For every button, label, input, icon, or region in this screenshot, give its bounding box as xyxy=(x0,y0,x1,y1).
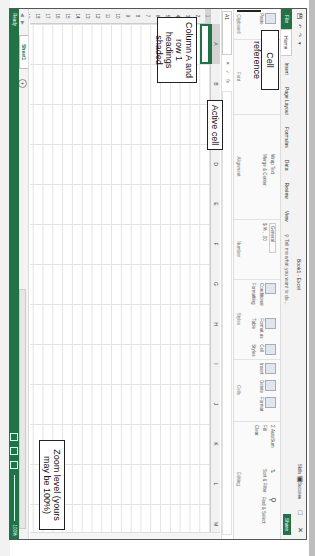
next-sheet-icon[interactable]: ▶ xyxy=(20,21,26,25)
group-editing: Σ AutoSum Fill Clear ⇅Sort & Filter ⚲Fin… xyxy=(234,421,280,537)
row-header-7[interactable]: 7 xyxy=(145,9,150,23)
customize-icon[interactable]: ▾ xyxy=(297,42,303,45)
horizontal-scrollbar[interactable] xyxy=(19,289,26,529)
row-header-8[interactable]: 8 xyxy=(135,9,140,23)
conditional-formatting-button[interactable]: Conditional Formatting xyxy=(249,283,276,314)
window-title: Book1 - Excel xyxy=(296,259,302,290)
sort-icon: ⇅ xyxy=(270,469,275,473)
paste-button[interactable]: Paste xyxy=(259,13,264,25)
paste-icon[interactable] xyxy=(265,13,276,24)
row-header-15[interactable]: 15 xyxy=(65,9,70,23)
clear-button[interactable]: Clear xyxy=(254,425,259,436)
group-label-clipboard: Clipboard xyxy=(236,9,241,39)
row-header-18[interactable]: 18 xyxy=(35,9,40,23)
arrow-cell-reference xyxy=(237,10,261,12)
sort-filter-button[interactable]: ⇅Sort & Filter xyxy=(259,469,276,493)
column-header-g[interactable]: G xyxy=(213,264,219,304)
column-header-e[interactable]: E xyxy=(213,184,219,224)
ribbon-display-icon[interactable]: ▣ xyxy=(296,476,304,483)
cancel-icon[interactable]: ✕ xyxy=(225,61,231,65)
group-number: General $ % , .00 Number xyxy=(234,219,280,280)
row-header-14[interactable]: 14 xyxy=(75,9,80,23)
cell-styles-icon xyxy=(265,344,276,355)
column-header-k[interactable]: K xyxy=(213,424,219,464)
close-icon[interactable]: ✕ xyxy=(296,527,304,533)
sheet-nav: ◀ ▶ xyxy=(20,13,26,25)
formula-input[interactable] xyxy=(222,91,232,535)
column-header-d[interactable]: D xyxy=(213,144,219,184)
group-label-cells: Cells xyxy=(236,359,241,421)
group-alignment: Wrap Text Merge & Center Alignment xyxy=(234,114,280,220)
delete-cells-button[interactable]: Delete xyxy=(257,380,276,393)
status-bar: Ready 100% xyxy=(10,9,19,539)
column-header-j[interactable]: J xyxy=(213,384,219,424)
tab-page-layout[interactable]: Page Layout xyxy=(281,81,292,121)
tab-view[interactable]: View xyxy=(281,205,292,228)
find-select-button[interactable]: ⚲Find & Select xyxy=(259,497,276,524)
column-headers: A B C D E F G H I J K L M xyxy=(210,9,220,539)
title-bar: 💾 ↶ ↷ ▾ Book1 - Excel Skills for Success… xyxy=(292,9,306,539)
percent-button[interactable]: % xyxy=(262,227,267,231)
tab-formulas[interactable]: Formulas xyxy=(281,121,292,154)
column-header-a[interactable]: A xyxy=(210,24,220,64)
decimal-button[interactable]: .00 xyxy=(262,235,267,241)
normal-view-icon[interactable] xyxy=(10,433,18,441)
group-label-styles: Styles xyxy=(236,279,241,359)
page-break-view-icon[interactable] xyxy=(10,461,18,469)
group-label-font: Font xyxy=(236,39,241,114)
row-header-17[interactable]: 17 xyxy=(45,9,50,23)
name-box[interactable]: A1 xyxy=(222,11,232,55)
enter-icon[interactable]: ✓ xyxy=(225,70,231,74)
row-header-1[interactable]: 1 xyxy=(205,9,210,23)
row-header-16[interactable]: 16 xyxy=(55,9,60,23)
insert-cells-icon xyxy=(265,363,276,374)
tab-file[interactable]: File xyxy=(281,9,292,29)
save-icon[interactable]: 💾 xyxy=(297,13,303,19)
currency-button[interactable]: $ xyxy=(262,223,267,226)
autosum-button[interactable]: Σ AutoSum xyxy=(270,425,275,448)
fill-button[interactable]: Fill xyxy=(262,425,267,431)
tab-review[interactable]: Review xyxy=(281,176,292,204)
restore-icon[interactable]: □ xyxy=(296,511,304,515)
formula-buttons: ✕ ✓ fx xyxy=(225,61,231,83)
tab-data[interactable]: Data xyxy=(281,154,292,177)
redo-icon[interactable]: ↷ xyxy=(297,33,303,37)
insert-cells-button[interactable]: Insert xyxy=(257,363,276,376)
insert-function-icon[interactable]: fx xyxy=(225,79,231,83)
column-header-f[interactable]: F xyxy=(213,224,219,264)
zoom-level[interactable]: 100% xyxy=(12,524,17,536)
comma-button[interactable]: , xyxy=(262,232,267,233)
sheet-tab-sheet1[interactable]: Sheet1 xyxy=(19,35,28,69)
undo-icon[interactable]: ↶ xyxy=(297,24,303,28)
ribbon-tabs: File Home Insert Page Layout Formulas Da… xyxy=(280,9,292,539)
vertical-scrollbar[interactable] xyxy=(30,532,220,539)
format-cells-button[interactable]: Format xyxy=(257,397,276,411)
tell-me-box[interactable]: ⚲ Tell me what you want to do... xyxy=(281,228,292,311)
number-format-select[interactable]: General xyxy=(269,223,276,253)
format-as-table-button[interactable]: Format as Table xyxy=(249,318,276,340)
merge-center-button[interactable]: Merge & Center xyxy=(262,154,267,186)
zoom-slider[interactable] xyxy=(14,475,15,521)
active-cell-a1[interactable] xyxy=(200,24,210,64)
wrap-text-button[interactable]: Wrap Text xyxy=(270,154,275,174)
row-header-9[interactable]: 9 xyxy=(125,9,130,23)
row-header-11[interactable]: 11 xyxy=(105,9,110,23)
share-button[interactable]: Share xyxy=(283,514,291,535)
tab-home[interactable]: Home xyxy=(281,29,292,56)
row-header-13[interactable]: 13 xyxy=(85,9,90,23)
row-header-12[interactable]: 12 xyxy=(95,9,100,23)
column-header-b[interactable]: B xyxy=(213,64,219,104)
column-header-l[interactable]: L xyxy=(213,464,219,504)
cell-styles-button[interactable]: Cell Styles xyxy=(249,344,276,359)
sheet-tab-bar: ◀ ▶ Sheet1 + xyxy=(18,9,29,539)
prev-sheet-icon[interactable]: ◀ xyxy=(20,13,26,17)
tab-insert[interactable]: Insert xyxy=(281,56,292,81)
delete-cells-icon xyxy=(265,380,276,391)
column-header-i[interactable]: I xyxy=(213,344,219,384)
new-sheet-button[interactable]: + xyxy=(18,79,27,88)
page-layout-view-icon[interactable] xyxy=(10,447,18,455)
window-controls: ▣ – □ ✕ xyxy=(296,476,304,533)
minimize-icon[interactable]: – xyxy=(296,495,304,499)
column-header-h[interactable]: H xyxy=(213,304,219,344)
row-header-10[interactable]: 10 xyxy=(115,9,120,23)
